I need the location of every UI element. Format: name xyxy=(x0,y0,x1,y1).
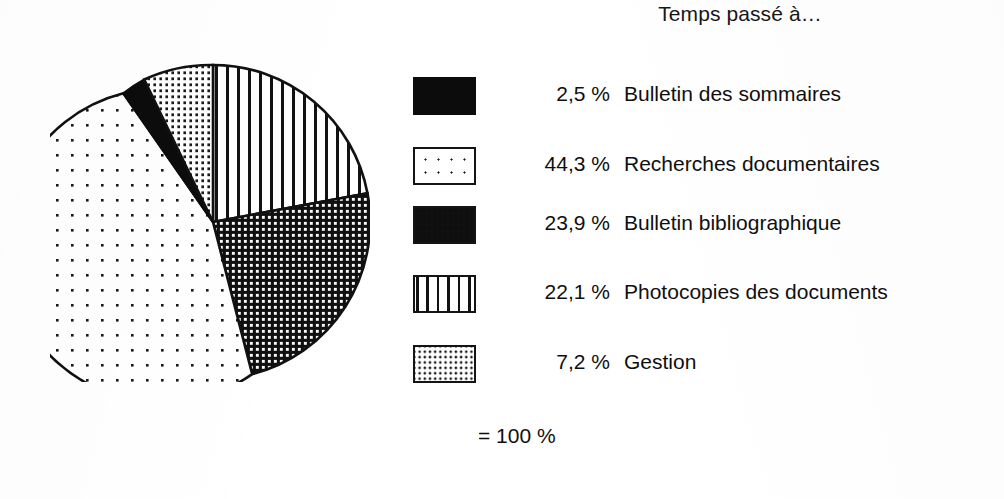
legend-item-recherches-documentaires: 44,3 % Recherches documentaires xyxy=(405,144,1004,188)
legend-label: Bulletin bibliographique xyxy=(624,211,841,235)
chart-canvas: Temps passé à… xyxy=(0,0,1004,499)
legend-item-bulletin-des-sommaires: 2,5 % Bulletin des sommaires xyxy=(405,74,1004,118)
legend-label: Recherches documentaires xyxy=(624,152,880,176)
pie-chart-svg xyxy=(50,58,370,382)
legend-item-gestion: 7,2 % Gestion xyxy=(405,342,1004,386)
legend-percent: 7,2 % xyxy=(505,350,610,374)
legend: 2,5 % Bulletin des sommaires 44,3 % Rech… xyxy=(405,72,1004,412)
legend-percent: 22,1 % xyxy=(505,280,610,304)
pie-chart xyxy=(50,58,370,382)
legend-percent: 23,9 % xyxy=(505,211,610,235)
legend-swatch-medium-dots xyxy=(413,345,476,383)
total-label: = 100 % xyxy=(478,424,556,448)
legend-label: Photocopies des documents xyxy=(624,280,888,304)
legend-swatch-cross-hatch xyxy=(413,206,476,244)
legend-swatch-vertical-stripes xyxy=(413,275,476,313)
legend-percent: 44,3 % xyxy=(505,152,610,176)
page-title: Temps passé à… xyxy=(560,2,920,26)
legend-percent: 2,5 % xyxy=(505,82,610,106)
legend-swatch-sparse-dots xyxy=(413,147,476,185)
legend-item-photocopies-des-documents: 22,1 % Photocopies des documents xyxy=(405,272,1004,316)
legend-swatch-solid-black xyxy=(413,77,476,115)
legend-label: Bulletin des sommaires xyxy=(624,82,841,106)
legend-label: Gestion xyxy=(624,350,696,374)
legend-item-bulletin-bibliographique: 23,9 % Bulletin bibliographique xyxy=(405,203,1004,247)
